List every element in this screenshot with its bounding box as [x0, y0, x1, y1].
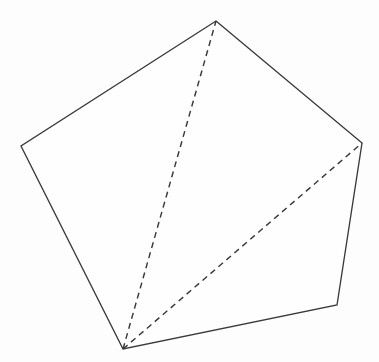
figure-canvas [0, 0, 379, 362]
pentagon-diagram [0, 0, 379, 362]
pentagon-outline [21, 21, 362, 349]
